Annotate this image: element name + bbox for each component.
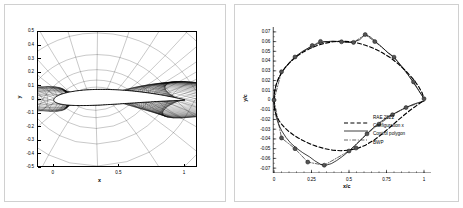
geometry-y-tick: -0.01 — [248, 107, 270, 112]
right-panel-geometry: -0.07-0.06-0.05-0.04-0.03-0.02-0.0100.01… — [234, 4, 459, 202]
mesh-y-tick: -0.4 — [15, 151, 34, 156]
mesh-plot-frame — [37, 31, 197, 167]
legend-label: Control polygon — [373, 130, 405, 137]
legend-symbol-dash-dot — [343, 130, 369, 138]
mesh-y-tickmark — [38, 45, 41, 46]
geometry-y-tick: 0.03 — [248, 68, 270, 73]
legend-entry: Control polygon — [343, 130, 429, 138]
mesh-x-tickmark — [118, 164, 119, 167]
mesh-y-tick: 0.4 — [15, 42, 34, 47]
geometry-y-tick: 0.01 — [248, 88, 270, 93]
geometry-y-tick: -0.05 — [248, 146, 270, 151]
mesh-y-tick: -0.5 — [15, 164, 34, 169]
mesh-y-tickmark — [38, 99, 41, 100]
geometry-y-tick: 0.04 — [248, 58, 270, 63]
mesh-y-tick: 0.3 — [15, 56, 34, 61]
geometry-y-tick: -0.07 — [248, 166, 270, 171]
legend-label: Configuration x — [373, 122, 404, 129]
mesh-x-tick: 1 — [174, 170, 194, 175]
mesh-y-tick: 0.2 — [15, 69, 34, 74]
geometry-y-tick: 0.02 — [248, 78, 270, 83]
geometry-y-tick: -0.04 — [248, 136, 270, 141]
legend-entry: Configuration x — [343, 121, 429, 129]
mesh-y-tickmark — [38, 85, 41, 86]
legend-entry: BWP — [343, 138, 429, 146]
geometry-y-axis-title: y/c — [242, 90, 248, 106]
mesh-x-tickmark — [184, 164, 185, 167]
geometry-x-tick: 0 — [262, 177, 286, 182]
mesh-x-tick: 0.5 — [108, 170, 128, 175]
mesh-x-tick: 0 — [43, 170, 63, 175]
two-panel-figure: -0.5-0.4-0.3-0.2-0.100.10.20.30.40.5 00.… — [0, 0, 463, 208]
geometry-x-axis-title: x/c — [343, 183, 351, 189]
geometry-legend: RAE 2822Configuration xControl polygonBW… — [343, 113, 429, 147]
mesh-y-tickmark — [38, 167, 41, 168]
mesh-y-tickmark — [38, 31, 41, 32]
mesh-y-tickmark — [38, 72, 41, 73]
legend-entry: RAE 2822 — [343, 113, 429, 121]
legend-label: RAE 2822 — [373, 114, 394, 121]
left-panel-mesh: -0.5-0.4-0.3-0.2-0.100.10.20.30.40.5 00.… — [4, 4, 226, 202]
mesh-y-tick: 0.5 — [15, 28, 34, 33]
geometry-x-tick: 1 — [412, 177, 436, 182]
mesh-y-axis-title: y — [16, 90, 22, 104]
geometry-y-tick: 0.05 — [248, 49, 270, 54]
mesh-y-tick: -0.2 — [15, 124, 34, 129]
legend-symbol-marker — [343, 138, 369, 146]
mesh-grid-graphic — [38, 32, 197, 167]
geometry-y-tick: 0.07 — [248, 29, 270, 34]
mesh-y-tick: -0.3 — [15, 137, 34, 142]
geometry-y-tick: -0.02 — [248, 117, 270, 122]
geometry-y-tick: 0.06 — [248, 39, 270, 44]
mesh-y-tickmark — [38, 140, 41, 141]
legend-symbol-solid — [343, 121, 369, 129]
geometry-x-tick: 0.5 — [337, 177, 361, 182]
mesh-y-tickmark — [38, 58, 41, 59]
mesh-y-tick: 0.1 — [15, 83, 34, 88]
mesh-y-tickmark — [38, 113, 41, 114]
geometry-x-tick: 0.75 — [375, 177, 399, 182]
geometry-y-tick: -0.03 — [248, 127, 270, 132]
geometry-x-tick: 0.25 — [300, 177, 324, 182]
mesh-y-tickmark — [38, 153, 41, 154]
geometry-y-tick: 0 — [248, 97, 270, 102]
legend-label: BWP — [373, 139, 383, 146]
mesh-x-tickmark — [53, 164, 54, 167]
mesh-x-axis-title: x — [98, 177, 101, 183]
legend-symbol-dashed — [343, 113, 369, 121]
geometry-y-tick: -0.06 — [248, 156, 270, 161]
mesh-y-tick: -0.1 — [15, 110, 34, 115]
mesh-y-tickmark — [38, 126, 41, 127]
